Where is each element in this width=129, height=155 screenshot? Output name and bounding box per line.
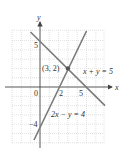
line2-equation-label: 2x − y = 4 [51, 110, 85, 119]
y-tick-5-label: 5 [34, 41, 38, 50]
x-tick-2-label: 2 [59, 89, 63, 98]
origin-label: 0 [34, 89, 38, 98]
y-axis-label: y [36, 13, 41, 22]
y-tick-neg4-label: −4 [29, 120, 38, 129]
graph: y x 0 2 5 5 −4 (3, 2) x + y = 5 2x − y =… [0, 0, 129, 155]
x-axis-label: x [114, 83, 119, 92]
line-2x-minus-y-eq-4 [34, 31, 87, 140]
grid [12, 30, 104, 143]
x-tick-5-label: 5 [79, 89, 83, 98]
line1-equation-label: x + y = 5 [82, 67, 113, 76]
intersection-point [66, 66, 70, 70]
intersection-label: (3, 2) [42, 64, 60, 73]
